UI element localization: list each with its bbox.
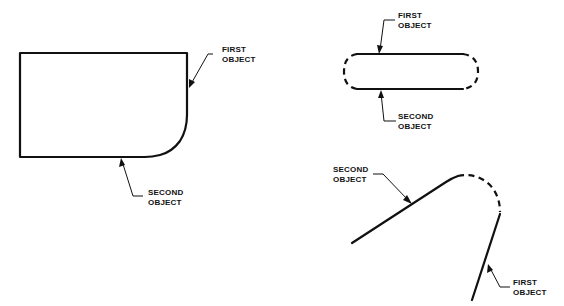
slot-right-arc — [463, 54, 478, 89]
figure-rect-fillet — [20, 53, 213, 196]
second-object-line — [352, 176, 458, 243]
leader-first-3 — [490, 268, 510, 287]
diagram-canvas — [0, 0, 564, 306]
label-line: SECOND — [148, 188, 183, 198]
figure-angled — [352, 174, 510, 300]
first-object-line — [472, 214, 500, 300]
figure-slot — [344, 20, 478, 121]
label-second-object-1: SECOND OBJECT — [148, 188, 183, 208]
label-first-object-2: FIRST OBJECT — [398, 11, 432, 31]
label-line: FIRST — [222, 45, 256, 55]
connecting-arc — [458, 175, 500, 212]
leader-first-1 — [191, 54, 213, 84]
label-line: OBJECT — [148, 198, 183, 208]
arrowhead-second-1 — [119, 158, 125, 167]
label-second-object-3: SECOND OBJECT — [333, 165, 368, 185]
label-line: SECOND — [333, 165, 368, 175]
rect-outline — [20, 53, 187, 157]
label-line: SECOND — [398, 112, 433, 122]
label-line: FIRST — [513, 278, 547, 288]
leader-second-3 — [373, 174, 408, 200]
label-second-object-2: SECOND OBJECT — [398, 112, 433, 132]
label-first-object-3: FIRST OBJECT — [513, 278, 547, 298]
label-line: OBJECT — [333, 175, 368, 185]
leader-first-2 — [380, 20, 395, 50]
label-line: OBJECT — [222, 55, 256, 65]
arrowhead-first-2 — [377, 45, 383, 54]
leader-second-1 — [122, 161, 143, 196]
label-line: OBJECT — [398, 122, 433, 132]
label-first-object-1: FIRST OBJECT — [222, 45, 256, 65]
label-line: OBJECT — [398, 21, 432, 31]
arrowhead-first-1 — [189, 79, 195, 88]
label-line: FIRST — [398, 11, 432, 21]
slot-left-arc — [344, 54, 357, 89]
arrowhead-second-2 — [378, 90, 384, 98]
label-line: OBJECT — [513, 288, 547, 298]
